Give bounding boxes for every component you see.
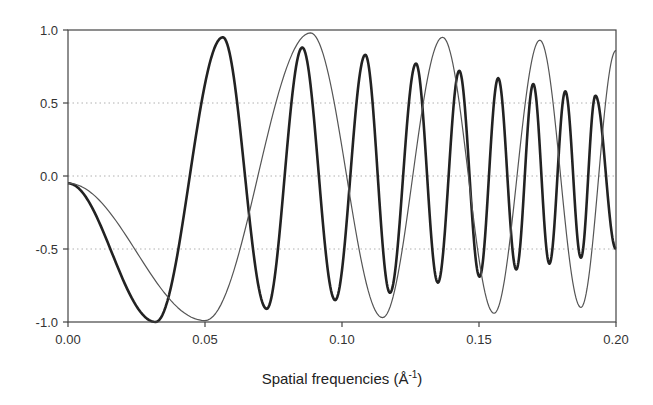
x-tick-label: 0.20 <box>603 332 628 347</box>
series-line-0 <box>68 37 616 322</box>
grid-lines <box>68 103 616 249</box>
y-tick-label: -0.5 <box>36 242 58 257</box>
x-tick-label: 0.10 <box>329 332 354 347</box>
x-tick-label: 0.00 <box>55 332 80 347</box>
y-tick-label: 0.5 <box>40 96 58 111</box>
x-tick-label: 0.05 <box>192 332 217 347</box>
y-tick-label: 0.0 <box>40 169 58 184</box>
y-tick-label: -1.0 <box>36 315 58 330</box>
x-tick-label: 0.15 <box>466 332 491 347</box>
data-series <box>68 33 616 322</box>
line-chart: 1.00.50.0-0.5-1.0 0.000.050.100.150.20 S… <box>0 0 653 405</box>
y-axis-ticks: 1.00.50.0-0.5-1.0 <box>36 23 68 330</box>
x-axis-ticks: 0.000.050.100.150.20 <box>55 322 628 347</box>
y-tick-label: 1.0 <box>40 23 58 38</box>
x-axis-title: Spatial frequencies (Å-1) <box>262 369 423 387</box>
